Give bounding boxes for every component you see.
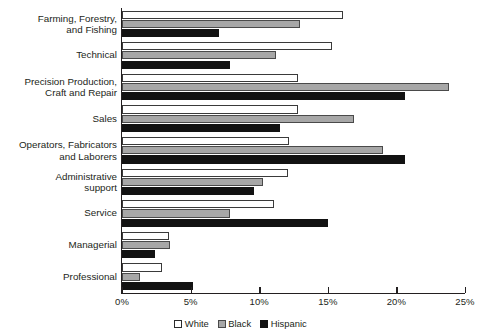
legend-swatch-icon xyxy=(174,320,182,328)
category-label: Precision Production, Craft and Repair xyxy=(1,76,117,99)
x-tick-label: 10% xyxy=(250,296,269,307)
bar-white-0 xyxy=(122,11,343,19)
category-label: Administrative support xyxy=(1,170,117,193)
bar-black-7 xyxy=(122,241,170,249)
bar-white-4 xyxy=(122,137,289,145)
legend-swatch-icon xyxy=(260,320,268,328)
bar-black-8 xyxy=(122,273,140,281)
x-tick-label: 25% xyxy=(455,296,474,307)
bar-black-5 xyxy=(122,178,263,186)
chart-legend: WhiteBlackHispanic xyxy=(0,318,481,329)
bar-hispanic-4 xyxy=(122,155,405,163)
bar-black-2 xyxy=(122,83,449,91)
category-label: Professional xyxy=(1,271,117,282)
bar-hispanic-7 xyxy=(122,250,155,258)
legend-item-black: Black xyxy=(218,318,251,329)
bar-white-8 xyxy=(122,263,162,271)
bar-hispanic-0 xyxy=(122,29,219,37)
horizontal-bar-chart: Farming, Forestry, and FishingTechnicalP… xyxy=(0,0,481,336)
bar-white-3 xyxy=(122,105,298,113)
bar-black-0 xyxy=(122,20,300,28)
category-label: Managerial xyxy=(1,239,117,250)
legend-label: Black xyxy=(228,318,251,329)
legend-label: White xyxy=(185,318,209,329)
bar-hispanic-1 xyxy=(122,61,230,69)
bar-white-1 xyxy=(122,42,332,50)
bar-black-1 xyxy=(122,51,276,59)
bar-group xyxy=(122,11,465,38)
bar-hispanic-8 xyxy=(122,282,193,290)
legend-item-hispanic: Hispanic xyxy=(260,318,306,329)
bar-black-6 xyxy=(122,209,230,217)
bar-white-5 xyxy=(122,169,288,177)
category-label: Operators, Fabricators and Laborers xyxy=(1,139,117,162)
category-label: Service xyxy=(1,208,117,219)
x-tick-label: 0% xyxy=(115,296,129,307)
x-tick-mark xyxy=(465,287,466,293)
bar-group xyxy=(122,169,465,196)
bar-group xyxy=(122,105,465,132)
category-label: Technical xyxy=(1,50,117,61)
x-tick-mark xyxy=(396,287,397,293)
bar-group xyxy=(122,263,465,290)
x-tick-mark xyxy=(191,287,192,293)
x-tick-mark xyxy=(328,287,329,293)
bar-group xyxy=(122,74,465,101)
category-label: Farming, Forestry, and Fishing xyxy=(1,12,117,35)
x-tick-label: 15% xyxy=(318,296,337,307)
bar-white-7 xyxy=(122,232,169,240)
bar-group xyxy=(122,42,465,69)
bar-white-2 xyxy=(122,74,298,82)
legend-label: Hispanic xyxy=(271,318,307,329)
x-tick-mark xyxy=(122,287,123,293)
bar-hispanic-6 xyxy=(122,219,328,227)
x-tick-mark xyxy=(259,287,260,293)
bar-group xyxy=(122,232,465,259)
category-axis-labels: Farming, Forestry, and FishingTechnicalP… xyxy=(0,0,117,336)
bar-hispanic-3 xyxy=(122,124,280,132)
bar-group xyxy=(122,200,465,227)
x-tick-label: 20% xyxy=(387,296,406,307)
legend-swatch-icon xyxy=(218,320,226,328)
bar-hispanic-5 xyxy=(122,187,254,195)
bar-black-3 xyxy=(122,115,354,123)
category-label: Sales xyxy=(1,113,117,124)
bar-black-4 xyxy=(122,146,383,154)
plot-area xyxy=(122,8,465,293)
bar-group xyxy=(122,137,465,164)
legend-item-white: White xyxy=(174,318,208,329)
bar-hispanic-2 xyxy=(122,92,405,100)
bar-white-6 xyxy=(122,200,274,208)
x-tick-label: 5% xyxy=(184,296,198,307)
